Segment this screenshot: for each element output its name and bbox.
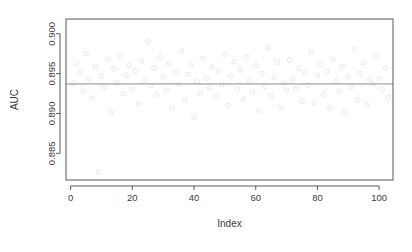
data-point [343,110,348,115]
data-point [118,54,123,59]
data-point [139,59,144,64]
data-point [226,103,231,108]
y-axis: 0.8850.8900.8950.900 [46,22,60,165]
data-point [213,94,218,99]
data-point [102,85,107,90]
data-point [75,62,80,67]
data-point [349,85,354,90]
data-point [186,72,191,77]
data-point [189,63,194,68]
plot-canvas: 020406080100 0.8850.8900.8950.900 Index … [0,0,412,252]
data-point [346,74,351,79]
data-point [232,59,237,64]
data-point [158,55,163,60]
data-point [278,105,283,110]
scatter-plot-figure: 020406080100 0.8850.8900.8950.900 Index … [0,0,412,252]
data-point [263,84,268,89]
data-point [130,86,135,91]
data-point [380,87,385,92]
data-point [250,90,255,95]
data-point [318,62,323,67]
x-axis-title: Index [217,218,241,229]
data-point [167,61,172,66]
plot-frame [66,19,393,180]
data-point [192,115,197,120]
data-point [136,102,141,107]
data-point [309,51,314,56]
data-point [321,92,326,97]
data-point [164,88,169,93]
y-axis-tick-label: 0.885 [46,141,57,165]
data-point [374,55,379,60]
data-point [229,74,234,79]
data-point [275,60,280,65]
data-point [331,57,336,62]
data-point [204,76,209,81]
data-point [300,99,305,104]
data-point [269,94,274,99]
y-axis-tick-label: 0.890 [46,102,57,126]
x-axis-tick-label: 40 [189,192,200,203]
data-point [303,71,308,76]
data-point [272,75,277,80]
data-point [284,88,289,93]
data-point [340,64,345,69]
data-point [238,67,243,72]
x-axis-tick-label: 0 [68,192,73,203]
data-point [207,86,212,91]
data-point [99,74,104,79]
data-point [287,58,292,63]
data-point [216,69,221,74]
data-point [361,61,366,66]
data-point [170,106,175,111]
data-point [112,67,117,72]
data-point [386,95,391,100]
data-point [312,101,317,106]
data-point [195,79,200,84]
data-point [364,102,369,107]
data-point [315,73,320,78]
data-point [87,77,92,82]
data-point [368,78,373,83]
data-point [290,77,295,82]
y-axis-tick-label: 0.900 [46,22,57,46]
data-point [198,90,203,95]
data-point [294,86,299,91]
data-point [327,106,332,111]
data-point [266,46,271,51]
data-point [84,51,89,56]
x-axis-tick-label: 80 [312,192,323,203]
data-point [383,66,388,71]
data-point [108,110,113,115]
y-axis-title: AUC [9,89,20,110]
data-point [124,73,129,78]
data-point [337,89,342,94]
data-point [241,97,246,102]
data-point [210,65,215,70]
data-point [127,63,132,68]
y-axis-tick-label: 0.895 [46,62,57,86]
data-point [223,52,228,57]
data-point [352,47,357,52]
data-point [281,81,286,86]
data-point [358,71,363,76]
data-point [78,71,83,76]
data-point [81,89,86,94]
x-axis-tick-label: 20 [127,192,138,203]
data-point [173,70,178,75]
data-point [133,68,138,73]
data-point [377,76,382,81]
data-point [355,98,360,103]
data-point [219,82,224,87]
data-point [257,109,262,114]
data-point [253,63,258,68]
data-point [324,69,329,74]
data-point [182,98,187,103]
data-point [121,91,126,96]
data-point [142,78,147,83]
data-point [105,57,110,62]
data-point [155,93,160,98]
data-point [93,64,98,69]
data-point [90,96,95,101]
data-points-layer [71,39,390,174]
